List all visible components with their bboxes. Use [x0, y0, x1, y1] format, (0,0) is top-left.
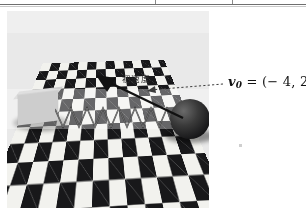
coil-spring [55, 97, 175, 131]
velocity-formula: v0 = (− 4, 2, 0) [228, 74, 306, 90]
page-top-rule [0, 4, 306, 5]
initial-velocity-label: 初速度 [122, 72, 150, 84]
page-top-rule-secondary [0, 6, 306, 7]
page-speck [239, 144, 242, 147]
ruler-tick-mark [155, 0, 156, 4]
formula-equals: = [247, 74, 258, 89]
figure-page: 初速度 v0 = (− 4, 2, 0) [0, 0, 306, 219]
photo-panel [7, 11, 209, 208]
ruler-tick-mark [232, 0, 233, 4]
gray-block [18, 91, 58, 126]
formula-vector-symbol: v [228, 74, 236, 89]
formula-comma: , [291, 74, 295, 89]
dark-sphere [170, 99, 209, 139]
formula-y-component: 2 [300, 74, 306, 89]
formula-subscript: 0 [236, 80, 242, 90]
formula-x-component: − 4 [267, 74, 291, 89]
